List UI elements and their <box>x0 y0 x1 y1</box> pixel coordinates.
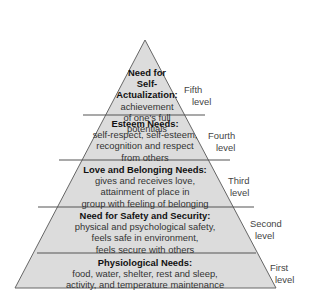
level-3-desc-1: gives and receives love, <box>45 175 245 186</box>
level-1-label: First level <box>270 262 294 285</box>
level-2-label: Second level <box>250 218 282 241</box>
level-4-desc-2: recognition and respect <box>60 140 230 151</box>
level-4-desc-1: self-respect, self-esteem, <box>60 129 230 140</box>
level-3-desc-2: attainment of place in <box>45 186 245 197</box>
level-2-desc-1: physical and psychological safety, <box>40 221 250 232</box>
level-1-title: Physiological Needs: <box>35 257 255 268</box>
level-3-love-belonging: Love and Belonging Needs: gives and rece… <box>45 164 245 209</box>
level-2-safety-security: Need for Safety and Security: physical a… <box>40 210 250 255</box>
level-1-desc-2: activity, and temperature maintenance <box>35 279 255 290</box>
level-3-desc-3: group with feeling of belonging <box>45 198 245 209</box>
level-4-label: Fourth level <box>208 130 235 153</box>
level-4-title: Esteem Needs: <box>60 118 230 129</box>
level-3-label: Third level <box>228 175 249 198</box>
level-2-desc-2: feels safe in environment, <box>40 232 250 243</box>
level-1-desc-1: food, water, shelter, rest and sleep, <box>35 268 255 279</box>
level-2-desc-3: feels secure with others <box>40 244 250 255</box>
level-5-title-1: Need for <box>95 67 199 78</box>
level-4-esteem: Esteem Needs: self-respect, self-esteem,… <box>60 118 230 163</box>
level-5-label: Fifth level <box>184 84 211 107</box>
level-1-physiological: Physiological Needs: food, water, shelte… <box>35 257 255 291</box>
level-2-title: Need for Safety and Security: <box>40 210 250 221</box>
level-3-title: Love and Belonging Needs: <box>45 164 245 175</box>
level-4-desc-3: from others <box>60 152 230 163</box>
